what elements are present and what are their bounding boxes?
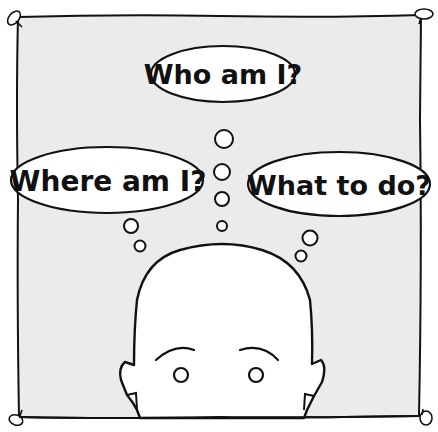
thought-bubble-what: What to do?: [247, 152, 431, 216]
thought-text-who: Who am I?: [144, 59, 302, 90]
thought-bubble-where: Where am I?: [10, 147, 207, 213]
pin-icon-top-left: [5, 9, 23, 28]
thought-text-where: Where am I?: [10, 165, 207, 198]
right-eye: [249, 368, 263, 382]
pin-icon-bottom-left: [8, 410, 25, 427]
thinking-head-illustration: Who am I? Where am I? What to do?: [0, 0, 438, 432]
bald-head: [120, 244, 324, 418]
left-eye: [174, 368, 188, 382]
thought-text-what: What to do?: [247, 170, 431, 201]
pin-icon-bottom-right: [420, 409, 432, 425]
